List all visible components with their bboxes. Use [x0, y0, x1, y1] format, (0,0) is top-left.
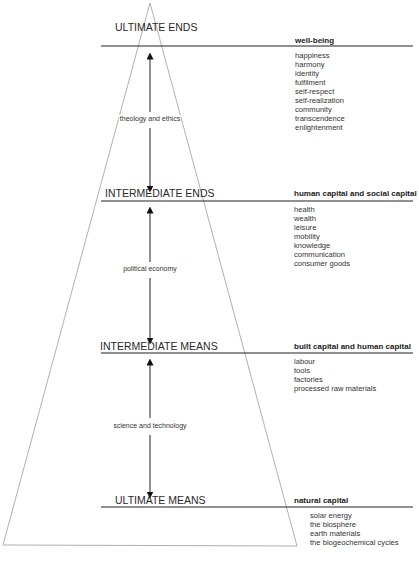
level-title-intermediate-means: INTERMEDIATE MEANS	[100, 340, 218, 352]
list-item: labour	[294, 357, 376, 366]
level-title-intermediate-ends: INTERMEDIATE ENDS	[105, 187, 214, 199]
natural-capital-items: solar energy the biosphere earth materia…	[310, 511, 399, 547]
category-natural-capital: natural capital	[294, 496, 348, 505]
list-item: happiness	[295, 51, 345, 60]
list-item: self-realization	[295, 96, 345, 105]
list-item: enlightenment	[295, 123, 345, 132]
list-item: health	[294, 205, 350, 214]
list-item: processed raw materials	[294, 384, 376, 393]
list-item: transcendence	[295, 114, 345, 123]
list-item: community	[295, 105, 345, 114]
list-item: fulfilment	[295, 78, 345, 87]
well-being-items: happiness harmony identity fulfilment se…	[295, 51, 345, 132]
level-title-ultimate-means: ULTIMATE MEANS	[115, 494, 206, 506]
category-human-social-capital: human capital and social capital	[294, 189, 417, 198]
list-item: earth materials	[310, 529, 399, 538]
built-human-capital-items: labour tools factories processed raw mat…	[294, 357, 376, 393]
level-title-ultimate-ends: ULTIMATE ENDS	[115, 21, 197, 33]
list-item: identity	[295, 69, 345, 78]
arrow-label-political-economy: political economy	[122, 265, 178, 272]
arrow-label-science-technology: science and technology	[112, 422, 187, 429]
list-item: wealth	[294, 214, 350, 223]
list-item: solar energy	[310, 511, 399, 520]
list-item: the biogeochemical cycles	[310, 538, 399, 547]
list-item: knowledge	[294, 241, 350, 250]
list-item: mobility	[294, 232, 350, 241]
list-item: leisure	[294, 223, 350, 232]
arrow-label-theology-ethics: theology and ethics	[119, 115, 181, 122]
diagram-canvas	[0, 0, 419, 562]
list-item: communication	[294, 250, 350, 259]
list-item: factories	[294, 375, 376, 384]
list-item: tools	[294, 366, 376, 375]
list-item: the biosphere	[310, 520, 399, 529]
category-well-being: well-being	[295, 36, 334, 45]
list-item: consumer goods	[294, 259, 350, 268]
category-built-human-capital: built capital and human capital	[294, 342, 411, 351]
list-item: harmony	[295, 60, 345, 69]
list-item: self-respect	[295, 87, 345, 96]
human-social-capital-items: health wealth leisure mobility knowledge…	[294, 205, 350, 268]
